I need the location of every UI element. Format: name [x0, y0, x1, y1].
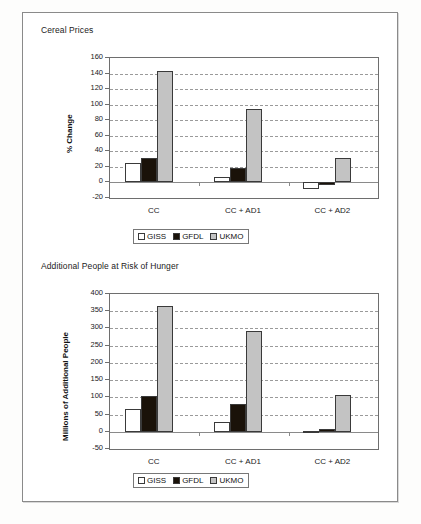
y-tick-mark: [105, 362, 109, 363]
legend-item-giss: GISS: [138, 232, 166, 241]
gridline: [110, 74, 378, 75]
y-tick-mark: [105, 345, 109, 346]
bar-gfdl: [230, 168, 246, 183]
zero-axis-line: [110, 182, 378, 183]
y-tick-mark: [105, 293, 109, 294]
legend-swatch-giss-icon-2: [138, 477, 145, 484]
y-tick-label: 0: [75, 178, 103, 186]
legend-people-at-risk: GISS GFDL UKMO: [133, 473, 249, 488]
y-tick-label: 160: [75, 53, 103, 61]
y-tick-label: 250: [75, 341, 103, 349]
y-tick-mark: [105, 119, 109, 120]
legend-item-gfdl-2: GFDL: [173, 476, 203, 485]
figure-frame: Cereal Prices -20020406080100120140160 C…: [22, 12, 398, 502]
legend-label-giss-2: GISS: [147, 476, 166, 485]
x-category-label: CC + AD1: [198, 457, 287, 466]
y-tick-mark: [105, 197, 109, 198]
x-tick-mark: [199, 432, 200, 436]
x-category-label: CC + AD2: [288, 206, 377, 215]
x-category-label: CC: [109, 206, 198, 215]
legend-item-ukmo: UKMO: [210, 232, 243, 241]
y-tick-label: 0: [75, 427, 103, 435]
bar-giss: [125, 409, 141, 431]
panel-title-people-at-risk: Additional People at Risk of Hunger: [41, 261, 179, 271]
y-axis-label-people-at-risk: Millions of Additional People: [61, 332, 70, 441]
panel-title-cereal-prices: Cereal Prices: [41, 25, 93, 35]
y-tick-label: 40: [75, 147, 103, 155]
x-category-label: CC + AD1: [198, 206, 287, 215]
y-tick-label: -20: [75, 193, 103, 201]
legend-label-ukmo-2: UKMO: [219, 476, 243, 485]
y-tick-mark: [105, 73, 109, 74]
bar-ukmo: [246, 109, 262, 183]
y-tick-mark: [105, 310, 109, 311]
y-tick-mark: [105, 88, 109, 89]
y-tick-mark: [105, 448, 109, 449]
y-tick-label: 400: [75, 289, 103, 297]
y-tick-mark: [105, 150, 109, 151]
legend-swatch-ukmo-icon: [210, 233, 217, 240]
y-axis-label-cereal-prices: % Change: [65, 114, 74, 153]
y-tick-label: 200: [75, 358, 103, 366]
y-tick-label: 300: [75, 324, 103, 332]
legend-label-gfdl: GFDL: [182, 232, 203, 241]
gridline: [110, 380, 378, 381]
gridline: [110, 363, 378, 364]
bar-gfdl: [319, 429, 335, 432]
gridline: [110, 105, 378, 106]
x-tick-mark: [289, 432, 290, 436]
bar-gfdl: [141, 158, 157, 182]
legend-label-giss: GISS: [147, 232, 166, 241]
bar-ukmo: [157, 306, 173, 432]
bar-ukmo: [246, 331, 262, 432]
y-tick-label: 100: [75, 393, 103, 401]
bar-gfdl: [141, 396, 157, 432]
y-tick-mark: [105, 104, 109, 105]
legend-swatch-giss-icon: [138, 233, 145, 240]
legend-label-ukmo: UKMO: [219, 232, 243, 241]
legend-swatch-gfdl-icon: [173, 233, 180, 240]
bar-giss: [214, 177, 230, 182]
gridline: [110, 328, 378, 329]
legend-swatch-gfdl-icon-2: [173, 477, 180, 484]
y-tick-mark: [105, 327, 109, 328]
bar-gfdl: [230, 404, 246, 432]
y-tick-mark: [105, 57, 109, 58]
y-tick-mark: [105, 431, 109, 432]
bar-giss: [303, 431, 319, 433]
x-tick-mark: [199, 182, 200, 186]
bar-giss: [303, 182, 319, 188]
y-tick-label: 100: [75, 100, 103, 108]
gridline: [110, 151, 378, 152]
legend-label-gfdl-2: GFDL: [182, 476, 203, 485]
y-tick-label: 20: [75, 162, 103, 170]
bar-giss: [125, 163, 141, 182]
gridline: [110, 311, 378, 312]
plot-area-people-at-risk: -50050100150200250300350400 CCCC + AD1CC…: [109, 293, 377, 448]
gridline: [110, 136, 378, 137]
gridline: [110, 346, 378, 347]
y-tick-mark: [105, 166, 109, 167]
y-tick-mark: [105, 414, 109, 415]
x-category-label: CC + AD2: [288, 457, 377, 466]
y-tick-label: 80: [75, 115, 103, 123]
y-tick-mark: [105, 379, 109, 380]
gridline: [110, 89, 378, 90]
bar-giss: [214, 422, 230, 432]
x-category-label: CC: [109, 457, 198, 466]
plot-area-cereal-prices: -20020406080100120140160 CCCC + AD1CC + …: [109, 57, 377, 197]
bar-ukmo: [335, 158, 351, 183]
x-tick-mark: [289, 182, 290, 186]
legend-item-ukmo-2: UKMO: [210, 476, 243, 485]
y-tick-mark: [105, 396, 109, 397]
y-tick-label: 150: [75, 375, 103, 383]
zero-axis-line: [110, 432, 378, 433]
y-tick-label: 60: [75, 131, 103, 139]
y-tick-label: 120: [75, 84, 103, 92]
gridline: [110, 120, 378, 121]
panel-cereal-prices: Cereal Prices -20020406080100120140160 C…: [23, 13, 397, 251]
y-tick-mark: [105, 135, 109, 136]
bar-gfdl: [319, 182, 335, 184]
legend-swatch-ukmo-icon-2: [210, 477, 217, 484]
legend-item-giss-2: GISS: [138, 476, 166, 485]
